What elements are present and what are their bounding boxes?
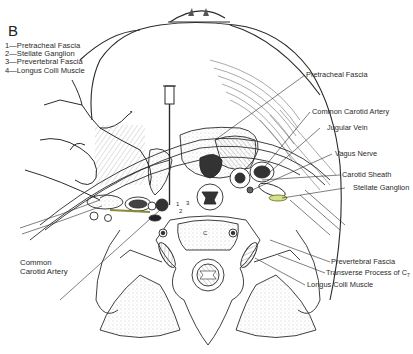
legend: 1—Pretracheal Fascia 2—Stellate Ganglion… (5, 42, 85, 75)
chin-shading (188, 8, 209, 16)
right-transverse-process (254, 250, 300, 262)
anatomical-illustration: B 1—Pretracheal Fascia 2—Stellate Gangli… (0, 0, 413, 354)
label-carotid-sheath: Carotid Sheath (342, 171, 391, 179)
right-common-carotid-artery (235, 173, 245, 183)
left-carotid-sheath (87, 195, 168, 222)
label-prevertebral-fascia: Prevertebral Fascia (331, 258, 395, 266)
left-common-carotid-artery (156, 199, 168, 211)
label-pretracheal-fascia: Pretracheal Fascia (306, 71, 368, 79)
label-common-carotid-artery-left: Common Carotid Artery (20, 258, 68, 276)
label-jugular-vein: Jugular Vein (327, 124, 368, 132)
hand-shading (95, 125, 145, 185)
right-carotid-sheath (230, 162, 287, 201)
inline-number-3: 3 (186, 199, 189, 207)
label-stellate-ganglion: Stellate Ganglion (353, 184, 409, 192)
vertebra-marker: C (203, 229, 207, 237)
right-jugular-vein (254, 166, 270, 178)
inline-number-2: 2 (179, 207, 182, 215)
syringe-hub (165, 86, 174, 104)
right-stellate-ganglion (269, 195, 287, 201)
panel-letter: B (8, 22, 18, 39)
label-longus-colli-muscle: Longus Colli Muscle (307, 281, 373, 289)
label-transverse-process: Transverse Process of C7 (326, 269, 410, 279)
legend-item-longus-colli-muscle: 4—Longus Colli Muscle (5, 67, 85, 75)
label-vagus-nerve: Vagus Nerve (335, 150, 377, 158)
label-common-carotid-artery-right: Common Carotid Artery (312, 108, 389, 116)
left-transverse-process (120, 250, 162, 262)
needle[interactable] (163, 86, 176, 205)
